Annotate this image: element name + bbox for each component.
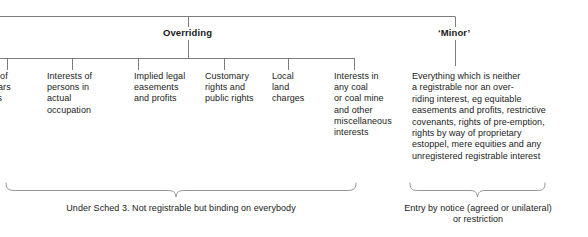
branch-title-minor: ‘Minor’ [438, 27, 470, 38]
leaf-local-land-charges: Local land charges [272, 71, 324, 105]
leaf-leases: s of ears ss [0, 71, 33, 105]
diagram-canvas: Overriding ‘Minor’ s of ears ss Interest… [0, 0, 588, 237]
leaf-customary-rights-and-public-rights: Customary rights and public rights [205, 71, 281, 105]
leaf-interests-of-persons-in-actual-occupation: Interests of persons in actual occupatio… [47, 71, 119, 116]
caption-minor: Entry by notice (agreed or unilateral) o… [390, 203, 566, 226]
brace-overriding [6, 183, 356, 197]
brace-minor [410, 183, 545, 197]
branch-title-overriding: Overriding [163, 27, 212, 38]
leaf-interests-in-any-coal: Interests in any coal or coal mine and o… [334, 71, 410, 138]
caption-overriding: Under Sched 3. Not registrable but bindi… [6, 203, 356, 214]
leaf-minor-description: Everything which is neither a registrabl… [412, 71, 588, 162]
leaf-implied-legal-easements-and-profits: Implied legal easements and profits [134, 71, 208, 105]
